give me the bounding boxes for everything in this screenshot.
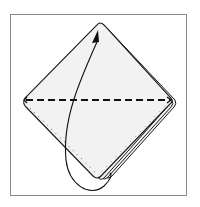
- napkin-fold-diagram: [0, 0, 200, 207]
